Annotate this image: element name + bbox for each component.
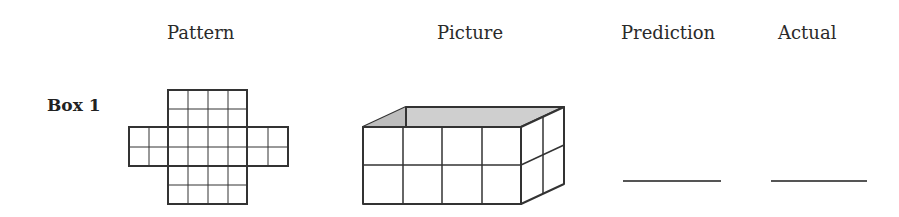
figures (0, 0, 899, 217)
actual-answer-line[interactable] (771, 180, 867, 182)
box-net-pattern (129, 90, 288, 204)
prediction-answer-line[interactable] (623, 180, 721, 182)
open-box-picture (363, 107, 564, 204)
